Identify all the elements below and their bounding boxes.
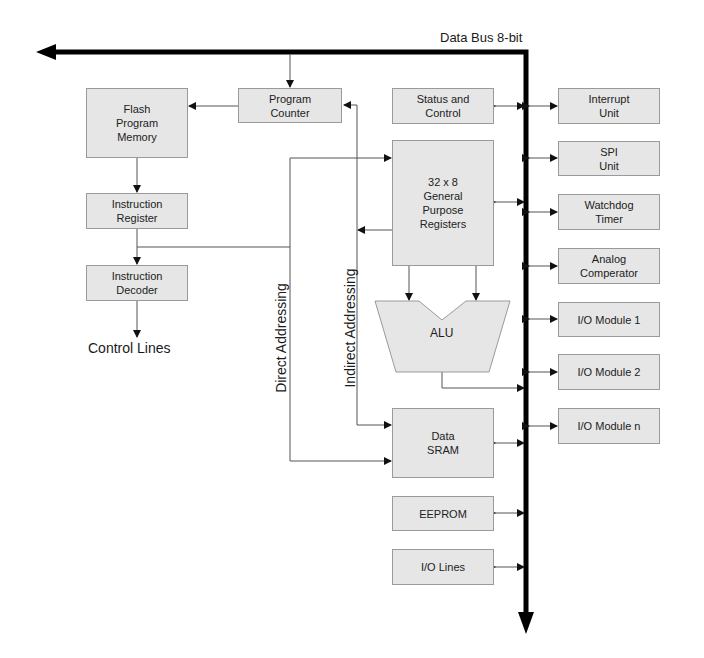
watchdog-timer-block: Watchdog Timer xyxy=(558,194,660,230)
interrupt-unit-block: Interrupt Unit xyxy=(558,88,660,124)
bus-left-arrow-icon xyxy=(36,44,56,60)
spi-unit-block: SPI Unit xyxy=(558,141,660,176)
instruction-register-block: Instruction Register xyxy=(86,193,188,229)
data-sram-block: Data SRAM xyxy=(392,408,494,478)
io-module-1-block: I/O Module 1 xyxy=(558,302,660,337)
eeprom-block: EEPROM xyxy=(392,496,494,531)
io-module-2-block: I/O Module 2 xyxy=(558,354,660,390)
io-module-n-block: I/O Module n xyxy=(558,408,660,444)
alu-label: ALU xyxy=(430,326,453,340)
flash-program-memory-block: Flash Program Memory xyxy=(86,88,188,158)
indirect-addressing-label: Indirect Addressing xyxy=(342,253,358,403)
bus-down-arrow-icon xyxy=(518,612,534,634)
analog-comparator-block: Analog Comperator xyxy=(558,248,660,284)
bus-label: Data Bus 8-bit xyxy=(440,30,522,45)
direct-addressing-label: Direct Addressing xyxy=(273,268,289,408)
io-lines-block: I/O Lines xyxy=(392,549,494,585)
gpr-block: 32 x 8 General Purpose Registers xyxy=(392,140,494,266)
program-counter-block: Program Counter xyxy=(238,88,342,123)
instruction-decoder-block: Instruction Decoder xyxy=(86,265,188,301)
status-control-block: Status and Control xyxy=(392,88,494,124)
control-lines-label: Control Lines xyxy=(88,340,171,356)
